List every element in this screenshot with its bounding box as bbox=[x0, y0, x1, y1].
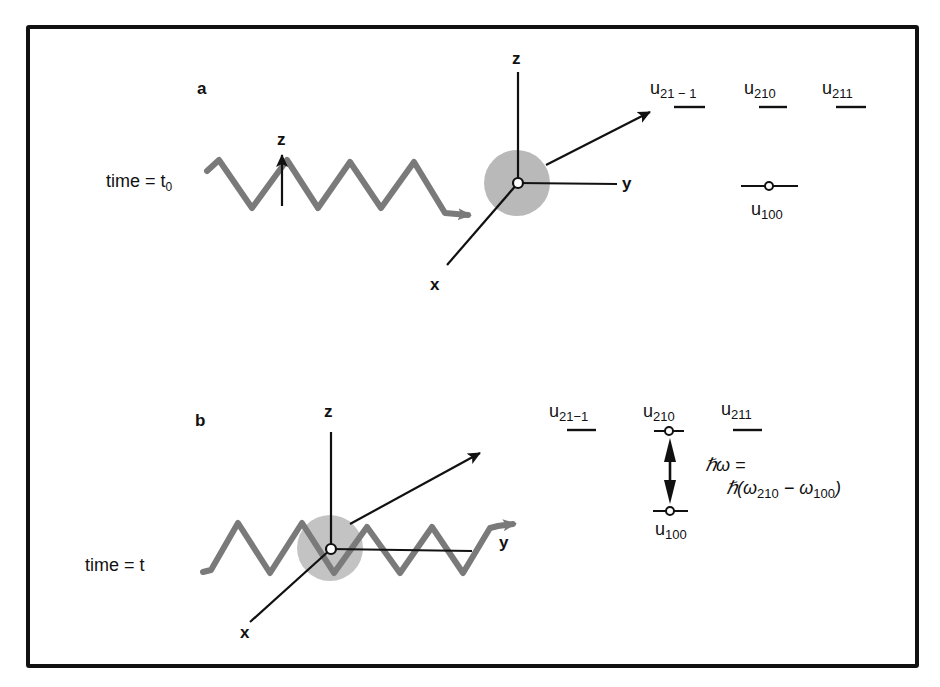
state-base: u bbox=[822, 78, 832, 98]
state-label-u21m1-b: u21−1 bbox=[549, 402, 588, 423]
state-sub: 211 bbox=[731, 407, 752, 422]
node-u210-b bbox=[665, 427, 673, 435]
eq-mid: − ω bbox=[779, 478, 814, 498]
time-label-a: time = t0 bbox=[106, 172, 172, 193]
state-label-u100-a: u100 bbox=[751, 200, 783, 221]
eq-prefix: ℏ(ω bbox=[726, 478, 757, 498]
state-base: u bbox=[751, 199, 761, 219]
state-sub: 100 bbox=[761, 207, 783, 222]
eq-suffix: ) bbox=[835, 478, 841, 498]
polarization-label-a: z bbox=[277, 131, 286, 148]
eq-sub1: 210 bbox=[757, 486, 779, 501]
eq-sub2: 100 bbox=[813, 486, 835, 501]
z-axis-label-a: z bbox=[512, 50, 521, 67]
wave-a bbox=[207, 160, 468, 215]
transition-arrowhead-down bbox=[664, 480, 676, 504]
state-base: u bbox=[744, 78, 754, 98]
panel-label-b: b bbox=[195, 412, 205, 429]
transition-arrowhead-up bbox=[664, 438, 676, 462]
state-base: u bbox=[643, 401, 653, 421]
state-sub: 210 bbox=[653, 409, 675, 424]
energy-equation-line1: ℏω = bbox=[705, 456, 746, 474]
state-label-u100-b: u100 bbox=[655, 520, 687, 541]
x-axis-a bbox=[447, 183, 518, 265]
x-axis-label-a: x bbox=[430, 276, 439, 293]
y-axis-a bbox=[518, 183, 617, 184]
state-sub: 100 bbox=[665, 527, 687, 542]
state-base: u bbox=[655, 519, 665, 539]
figure-drawing bbox=[0, 0, 940, 687]
propagation-arrow-a bbox=[546, 112, 650, 165]
state-label-u210-b: u210 bbox=[643, 402, 675, 423]
state-label-u210-a: u210 bbox=[744, 79, 776, 100]
origin-a bbox=[513, 178, 523, 188]
z-axis-label-b: z bbox=[324, 403, 333, 420]
state-label-u211-a: u211 bbox=[822, 79, 853, 100]
energy-equation-line2: ℏ(ω210 − ω100) bbox=[726, 479, 841, 500]
propagation-arrow-b bbox=[350, 453, 480, 524]
state-label-u21m1-a: u21 − 1 bbox=[650, 79, 697, 100]
occupied-node-u100-a bbox=[765, 182, 773, 190]
time-label-b: time = t bbox=[85, 556, 145, 574]
state-label-u211-b: u211 bbox=[721, 400, 752, 421]
y-axis-label-b: y bbox=[499, 534, 508, 551]
state-sub: 211 bbox=[832, 86, 853, 101]
panel-label-a: a bbox=[197, 80, 206, 97]
node-u100-b bbox=[666, 507, 674, 515]
state-base: u bbox=[721, 399, 731, 419]
state-base: u bbox=[650, 78, 660, 98]
state-sub: 21−1 bbox=[559, 409, 588, 424]
origin-b bbox=[326, 544, 336, 554]
time-subscript-a: 0 bbox=[166, 180, 173, 194]
state-sub: 21 − 1 bbox=[660, 86, 697, 101]
state-base: u bbox=[549, 401, 559, 421]
state-sub: 210 bbox=[754, 86, 776, 101]
y-axis-label-a: y bbox=[622, 175, 631, 192]
x-axis-label-b: x bbox=[240, 624, 249, 641]
time-text-a: time = t bbox=[106, 171, 166, 191]
